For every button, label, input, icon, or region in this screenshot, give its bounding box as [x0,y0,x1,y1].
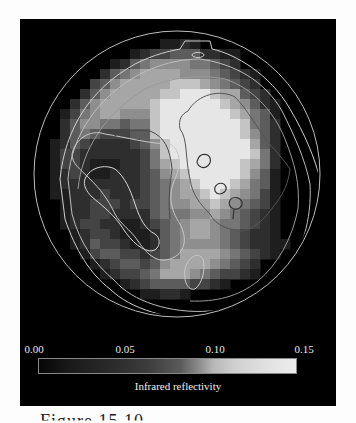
reflectivity-map [20,19,336,339]
colorbar [38,358,297,374]
colorbar-tick-0: 0.00 [24,343,43,355]
figure-caption: Figure 15.10 [40,411,144,423]
reflectivity-figure: 0.00 0.05 0.10 0.15 Infrared reflectivit… [20,19,336,406]
colorbar-label: Infrared reflectivity [20,380,336,392]
colorbar-tick-1: 0.05 [115,343,134,355]
colorbar-tick-3: 0.15 [294,343,313,355]
colorbar-tick-2: 0.10 [205,343,224,355]
heatmap-cells [50,39,291,300]
